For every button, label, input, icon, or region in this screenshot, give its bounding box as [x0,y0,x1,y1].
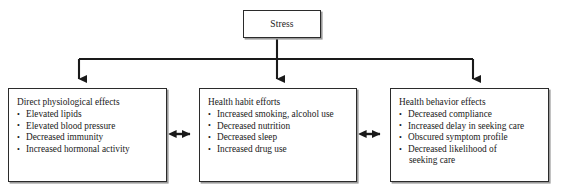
list-item: Decreased nutrition [207,121,351,133]
bullet-list: Elevated lipids Elevated blood pressure … [16,109,161,155]
bullet-list: Increased smoking, alcohol use Decreased… [207,109,351,155]
node-health-behavior-effects: Health behavior effects Decreased compli… [390,88,549,182]
node-health-habit-efforts: Health habit efforts Increased smoking, … [199,88,357,182]
node-heading: Health habit efforts [208,97,351,108]
node-stress-label: Stress [244,19,320,30]
list-item-line-2: seeking care [408,155,543,167]
list-item: Increased drug use [207,144,351,156]
diagram-canvas: Stress Direct physiological effects Elev… [0,0,561,196]
node-stress: Stress [243,10,321,38]
bullet-list: Decreased compliance Increased delay in … [398,109,543,167]
list-item: Decreased immunity [16,132,161,144]
list-item: Elevated blood pressure [16,121,161,133]
list-item: Elevated lipids [16,109,161,121]
node-heading: Health behavior effects [399,97,543,108]
list-item: Decreased sleep [207,132,351,144]
list-item: Decreased compliance [398,109,543,121]
list-item: Increased delay in seeking care [398,121,543,133]
list-item: Increased smoking, alcohol use [207,109,351,121]
node-direct-physiological-effects: Direct physiological effects Elevated li… [8,88,167,182]
list-item: Increased hormonal activity [16,144,161,156]
list-item-line-1: Decreased likelihood of [408,144,497,154]
list-item: Obscured symptom profile [398,132,543,144]
node-heading: Direct physiological effects [17,97,161,108]
list-item: Decreased likelihood of seeking care [398,144,543,167]
